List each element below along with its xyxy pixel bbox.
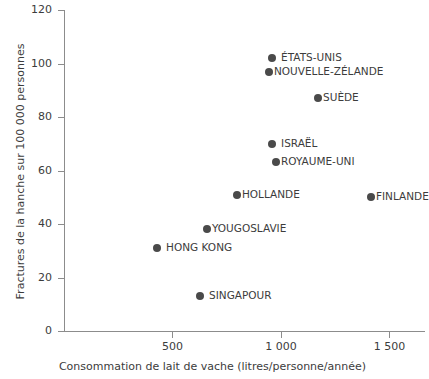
- y-tick-mark: [58, 224, 65, 225]
- data-point-label: HOLLANDE: [242, 188, 300, 201]
- data-point-marker: [196, 292, 204, 300]
- data-point-marker: [268, 140, 276, 148]
- y-axis-title: Fractures de la hanche sur 100 000 perso…: [14, 12, 27, 332]
- data-point-marker: [314, 94, 322, 102]
- x-axis-line: [64, 331, 425, 332]
- data-point-marker: [265, 68, 273, 76]
- y-tick-mark: [58, 278, 65, 279]
- y-tick-mark: [58, 171, 65, 172]
- data-point-label: NOUVELLE-ZÉLANDE: [274, 65, 383, 78]
- y-tick-mark: [58, 331, 65, 332]
- y-tick-label: 40: [38, 218, 52, 229]
- data-point-label: ISRAËL: [281, 137, 317, 150]
- x-tick-label: 1 000: [265, 341, 297, 353]
- data-point-marker: [367, 193, 375, 201]
- data-point-label: ÉTATS-UNIS: [281, 51, 342, 64]
- y-tick-mark: [58, 10, 65, 11]
- x-tick-mark: [389, 331, 390, 338]
- data-point-label: YOUGOSLAVIE: [212, 222, 286, 235]
- data-point-marker: [272, 158, 280, 166]
- y-tick-mark: [58, 117, 65, 118]
- data-point-marker: [268, 54, 276, 62]
- x-tick-mark: [172, 331, 173, 338]
- y-tick-label: 0: [45, 325, 52, 336]
- data-point-label: FINLANDE: [376, 190, 429, 203]
- data-point-marker: [153, 244, 161, 252]
- x-tick-mark: [281, 331, 282, 338]
- y-tick-label: 80: [38, 111, 52, 122]
- x-tick-label: 1 500: [374, 341, 406, 353]
- y-tick-label: 100: [31, 58, 52, 69]
- x-axis-title: Consommation de lait de vache (litres/pe…: [0, 360, 425, 373]
- data-point-label: SINGAPOUR: [209, 289, 272, 302]
- data-point-label: ROYAUME-UNI: [281, 155, 355, 168]
- data-point-label: HONG KONG: [166, 241, 232, 254]
- data-point-marker: [203, 225, 211, 233]
- data-point-label: SUÈDE: [323, 91, 359, 104]
- x-tick-label: 500: [162, 341, 183, 353]
- y-tick-mark: [58, 64, 65, 65]
- y-tick-label: 120: [31, 4, 52, 15]
- data-point-marker: [233, 191, 241, 199]
- y-tick-label: 20: [38, 272, 52, 283]
- y-tick-label: 60: [38, 165, 52, 176]
